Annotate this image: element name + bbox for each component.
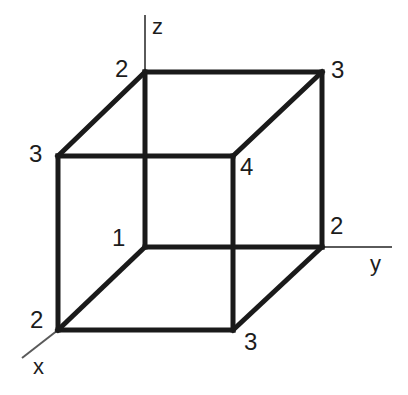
vertex-label-front-bottom-left: 2 [30,308,43,332]
depth-edge-bottom-right [233,247,322,330]
vertex-label-back-bottom-left: 1 [112,226,125,250]
cube-diagram-svg [0,0,408,395]
z-axis-label: z [152,16,163,38]
figure-canvas: 2 3 3 4 1 2 2 3 x y z [0,0,408,395]
cube-depth-edges [58,72,322,330]
vertex-label-back-bottom-right: 2 [330,214,343,238]
depth-edge-bottom-left [58,247,145,330]
vertex-label-back-top-right: 3 [331,58,344,82]
y-axis-label: y [370,253,381,275]
vertex-label-front-top-right: 4 [240,155,253,179]
vertex-label-back-top-left: 2 [115,57,128,81]
vertex-label-front-top-left: 3 [29,142,42,166]
x-axis-label: x [33,356,44,378]
vertex-label-front-bottom-right: 3 [244,330,257,354]
depth-edge-top-right [233,72,322,156]
depth-edge-top-left [58,72,145,156]
